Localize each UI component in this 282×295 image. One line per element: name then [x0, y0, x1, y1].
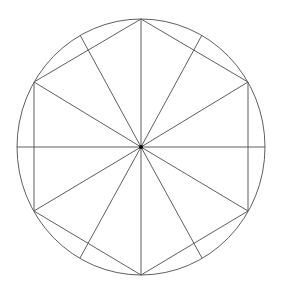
radius-to-circle-lower-right: [141, 147, 202, 258]
radius-to-circle-upper-left: [80, 35, 141, 147]
radius-to-vertex-lower-left: [34, 147, 141, 211]
radius-to-circle-upper-right: [141, 35, 202, 147]
center-point: [139, 145, 143, 149]
radius-to-vertex-upper-left: [34, 82, 141, 147]
radius-to-vertex-lower-right: [141, 147, 248, 211]
radius-to-vertex-upper-right: [141, 82, 248, 147]
geometry-diagram: [0, 0, 282, 295]
radius-to-circle-lower-left: [80, 147, 141, 258]
